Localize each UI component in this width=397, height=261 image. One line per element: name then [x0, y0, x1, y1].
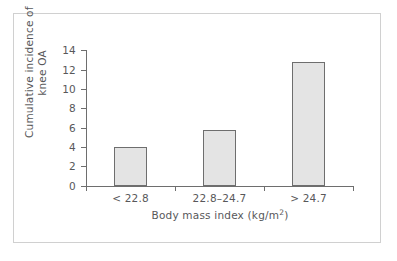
y-axis-title: Cumulative incidence of knee OA [23, 8, 53, 138]
y-tick-mark-4 [81, 147, 86, 148]
x-category-label-1: < 22.8 [86, 193, 175, 205]
x-axis-title: Body mass index (kg/m2) [86, 209, 354, 222]
y-tick-label-2: 2 [36, 161, 76, 172]
y-tick-mark-12 [81, 70, 86, 71]
x-axis-title-main: Body mass index (kg/m [152, 209, 280, 221]
y-axis-line [86, 50, 87, 187]
x-axis-line [86, 186, 354, 187]
bar-category-2 [203, 130, 236, 186]
y-tick-mark-10 [81, 89, 86, 90]
y-axis-title-line-2: knee OA [36, 8, 49, 138]
x-axis-title-tail: ) [284, 209, 288, 221]
bar-chart-plot-area: 0 2 4 6 8 10 12 14 < 22.8 22.8–24.7 > 24… [0, 0, 397, 261]
bar-category-1 [114, 147, 147, 186]
x-tick-mark-end [353, 186, 354, 191]
figure-container: 0 2 4 6 8 10 12 14 < 22.8 22.8–24.7 > 24… [0, 0, 397, 261]
y-tick-label-4: 4 [36, 142, 76, 153]
x-tick-mark-1 [175, 186, 176, 191]
x-category-label-3: > 24.7 [264, 193, 353, 205]
bar-category-3 [292, 62, 325, 186]
y-tick-label-0: 0 [36, 181, 76, 192]
y-tick-mark-14 [81, 50, 86, 51]
y-tick-mark-8 [81, 108, 86, 109]
x-category-label-2: 22.8–24.7 [175, 193, 264, 205]
y-tick-mark-6 [81, 128, 86, 129]
y-tick-mark-2 [81, 166, 86, 167]
y-axis-title-line-1: Cumulative incidence of [23, 8, 36, 138]
x-tick-mark-2 [264, 186, 265, 191]
x-tick-mark-start [86, 186, 87, 191]
